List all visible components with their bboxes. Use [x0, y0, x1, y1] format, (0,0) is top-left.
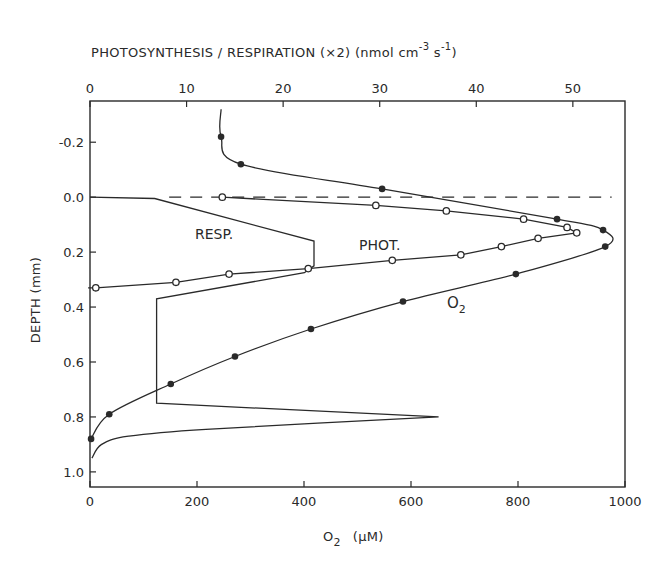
top-tick-label: 20	[275, 81, 292, 96]
plot-frame	[90, 101, 625, 487]
y-tick-label: 0.0	[63, 190, 84, 205]
depth-profile-chart: PHOTOSYNTHESIS / RESPIRATION (×2) (nmol …	[0, 0, 663, 575]
bottom-axis-ticks: 02004006008001000	[86, 481, 642, 509]
bottom-tick-label: 800	[506, 494, 531, 509]
phot-data-point	[564, 224, 570, 230]
top-tick-label: 10	[178, 81, 195, 96]
phot-data-point	[574, 230, 580, 236]
bottom-tick-label: 400	[292, 494, 317, 509]
resp-label: RESP.	[195, 226, 233, 242]
o2-data-point	[379, 186, 386, 193]
oxygen-markers	[88, 133, 609, 442]
bottom-tick-label: 1000	[608, 494, 641, 509]
bottom-tick-label: 600	[399, 494, 424, 509]
o2-data-point	[218, 133, 225, 140]
photosynthesis-curve	[88, 197, 577, 288]
phot-data-point	[226, 271, 232, 277]
phot-data-point	[305, 265, 311, 271]
top-tick-label: 0	[86, 81, 94, 96]
o2-label: O2	[447, 294, 466, 316]
bottom-tick-label: 200	[185, 494, 210, 509]
o2-data-point	[308, 326, 315, 333]
top-tick-label: 30	[371, 81, 388, 96]
y-tick-label: 0.8	[63, 410, 84, 425]
o2-data-point	[400, 298, 407, 305]
phot-data-point	[389, 257, 395, 263]
top-axis-ticks: 01020304050	[86, 81, 581, 107]
o2-data-point	[167, 381, 174, 388]
o2-data-point	[232, 353, 239, 360]
o2-data-point	[88, 436, 95, 443]
o2-data-point	[554, 216, 561, 223]
o2-data-point	[600, 227, 607, 234]
o2-data-point	[106, 411, 113, 418]
oxygen-curve	[91, 109, 613, 439]
o2-data-point	[238, 161, 245, 168]
phot-data-point	[458, 252, 464, 258]
phot-data-point	[219, 194, 225, 200]
bottom-axis-title: O2(µM)	[323, 529, 384, 549]
plot-area	[88, 109, 613, 458]
phot-data-point	[373, 202, 379, 208]
phot-data-point	[173, 279, 179, 285]
phot-data-point	[520, 216, 526, 222]
y-axis-title: DEPTH (mm)	[28, 257, 43, 343]
top-tick-label: 50	[565, 81, 582, 96]
y-tick-label: 1.0	[63, 465, 84, 480]
o2-data-point	[513, 271, 520, 278]
phot-label: PHOT.	[359, 237, 400, 253]
o2-data-point	[602, 243, 609, 250]
top-axis-title: PHOTOSYNTHESIS / RESPIRATION (×2) (nmol …	[91, 41, 457, 60]
y-tick-label: 0.4	[63, 300, 84, 315]
y-tick-label: -0.2	[59, 135, 84, 150]
top-tick-label: 40	[468, 81, 485, 96]
phot-data-point	[498, 243, 504, 249]
y-tick-label: 0.2	[63, 245, 84, 260]
y-tick-label: 0.6	[63, 355, 84, 370]
phot-data-point	[93, 285, 99, 291]
phot-data-point	[535, 235, 541, 241]
bottom-tick-label: 0	[86, 494, 94, 509]
phot-data-point	[443, 208, 449, 214]
